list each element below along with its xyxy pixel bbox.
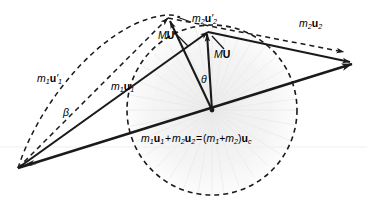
center-of-mass-vertex-dot: [210, 108, 215, 113]
momentum-vector-diagram: m1u′1 m1u1 m2u′2 m2u2 MU′ MU θ β m1u1 + …: [0, 0, 367, 209]
beta-angle-label: β: [63, 107, 69, 118]
m1-u1-prime-label: m1u′1: [37, 73, 62, 84]
diagram-canvas: [0, 0, 367, 209]
m2-u2-label: m2u2: [299, 18, 322, 29]
theta-angle-label: θ: [201, 74, 207, 85]
mu-prime-label: MU′: [158, 30, 176, 41]
momentum-conservation-equation: m1u1 + m2u2 = (m1+m2)uc: [141, 133, 252, 144]
m2-u2-prime-label: m2u′2: [192, 13, 217, 24]
m1-u1-label: m1u1: [111, 81, 134, 92]
mu-label: MU: [214, 49, 230, 60]
